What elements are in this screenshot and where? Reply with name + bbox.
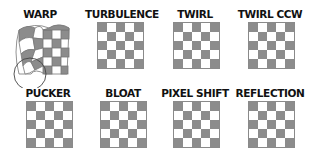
checker-square	[134, 23, 143, 32]
checker-square	[267, 138, 276, 147]
checker-square	[101, 120, 110, 129]
checker-square	[285, 102, 294, 111]
checker-square	[276, 120, 285, 129]
checker-square	[201, 120, 210, 129]
filter-label: TURBULENCE	[85, 8, 155, 20]
checker-square	[125, 59, 134, 68]
checker-square	[119, 111, 128, 120]
checker-square	[107, 50, 116, 59]
filter-label: TWIRL CCW	[235, 8, 305, 20]
checker-square	[249, 50, 258, 59]
checker-square	[192, 50, 201, 59]
checker-square	[54, 129, 63, 138]
checker-square	[267, 50, 276, 59]
checker-square	[107, 23, 116, 32]
filter-bloat: BLOAT	[88, 87, 158, 155]
checker-square	[27, 120, 36, 129]
checker-square	[54, 138, 63, 147]
checker-square	[174, 41, 183, 50]
checker-square	[137, 102, 146, 111]
checker-square	[174, 32, 183, 41]
checker-square	[116, 50, 125, 59]
checker-square	[276, 111, 285, 120]
checker-square	[125, 32, 134, 41]
filter-twirl: TWIRL	[160, 8, 230, 78]
checker-square	[201, 138, 210, 147]
checker-square	[210, 32, 219, 41]
checker-square	[201, 23, 210, 32]
checker-square	[276, 32, 285, 41]
checker-square	[128, 102, 137, 111]
checkerboard-icon	[173, 101, 220, 148]
checker-square	[267, 111, 276, 120]
checker-square	[45, 129, 54, 138]
checkerboard-icon	[248, 101, 295, 148]
checker-square	[137, 129, 146, 138]
checker-square	[210, 41, 219, 50]
checker-square	[285, 120, 294, 129]
checker-square	[119, 129, 128, 138]
checker-square	[285, 59, 294, 68]
checker-square	[98, 50, 107, 59]
checker-square	[285, 41, 294, 50]
checker-square	[201, 111, 210, 120]
checker-square	[258, 120, 267, 129]
checker-square	[201, 50, 210, 59]
checker-square	[276, 102, 285, 111]
checker-square	[45, 120, 54, 129]
checker-square	[249, 120, 258, 129]
checker-square	[98, 41, 107, 50]
checker-square	[107, 59, 116, 68]
checker-square	[258, 59, 267, 68]
checker-square	[210, 138, 219, 147]
checker-square	[249, 41, 258, 50]
filter-pucker: PUCKER	[13, 87, 83, 155]
checker-square	[98, 23, 107, 32]
checker-square	[27, 102, 36, 111]
checker-square	[276, 50, 285, 59]
checker-square	[192, 32, 201, 41]
checker-square	[110, 138, 119, 147]
checker-square	[134, 59, 143, 68]
checker-square	[210, 102, 219, 111]
checker-square	[134, 50, 143, 59]
checker-square	[54, 120, 63, 129]
checker-square	[137, 138, 146, 147]
checker-square	[210, 23, 219, 32]
checker-square	[258, 129, 267, 138]
checker-square	[249, 129, 258, 138]
checker-square	[192, 111, 201, 120]
checker-square	[119, 138, 128, 147]
checker-square	[137, 111, 146, 120]
checker-square	[267, 120, 276, 129]
checker-square	[54, 111, 63, 120]
warped-checkerboard-icon	[5, 8, 75, 88]
checker-square	[125, 50, 134, 59]
checker-square	[174, 120, 183, 129]
checker-square	[183, 23, 192, 32]
checker-square	[258, 50, 267, 59]
checker-square	[267, 59, 276, 68]
checker-square	[201, 41, 210, 50]
checker-square	[258, 111, 267, 120]
checker-square	[210, 111, 219, 120]
checker-square	[125, 23, 134, 32]
checker-square	[276, 41, 285, 50]
checkerboard-icon	[173, 22, 220, 69]
checker-square	[267, 129, 276, 138]
checker-square	[183, 41, 192, 50]
checker-square	[267, 102, 276, 111]
checker-square	[258, 23, 267, 32]
checker-square	[183, 111, 192, 120]
checker-square	[192, 59, 201, 68]
checker-square	[45, 111, 54, 120]
checker-square	[119, 120, 128, 129]
checker-square	[276, 59, 285, 68]
checker-square	[98, 59, 107, 68]
checker-square	[183, 120, 192, 129]
checker-square	[63, 129, 72, 138]
checker-square	[210, 129, 219, 138]
checker-square	[174, 138, 183, 147]
checker-square	[63, 138, 72, 147]
checker-square	[101, 129, 110, 138]
